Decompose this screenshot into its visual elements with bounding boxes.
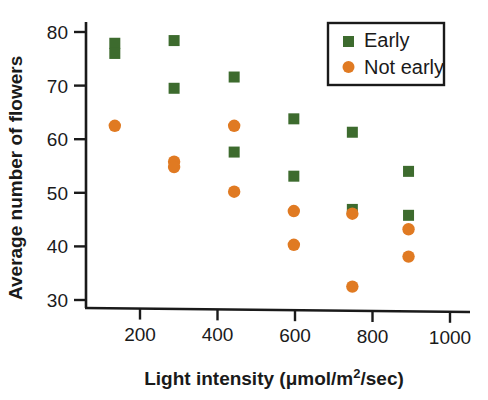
legend-label-not-early: Not early [364, 56, 444, 78]
data-point-early [403, 166, 414, 177]
data-point-early [288, 113, 299, 124]
data-point-not-early [109, 120, 121, 132]
y-tick-label-70: 70 [47, 76, 68, 97]
x-tick-label-200: 200 [124, 324, 156, 345]
data-point-early [288, 171, 299, 182]
data-point-not-early [402, 250, 414, 262]
legend-marker-early [343, 36, 354, 47]
data-point-early [229, 72, 240, 83]
data-point-early [403, 210, 414, 221]
data-point-not-early [168, 161, 180, 173]
y-tick-label-40: 40 [47, 236, 68, 257]
data-point-not-early [228, 186, 240, 198]
data-point-not-early [402, 223, 414, 235]
x-axis-title: Light intensity (μmol/m2/sec) [144, 366, 404, 389]
x-tick-label-400: 400 [202, 324, 234, 345]
y-tick-label-80: 80 [47, 22, 68, 43]
data-point-early [229, 147, 240, 158]
data-point-early [109, 48, 120, 59]
data-point-early [347, 127, 358, 138]
legend-marker-not-early [343, 61, 355, 73]
x-axis-title-superscript: 2 [353, 366, 360, 381]
y-tick-label-50: 50 [47, 183, 68, 204]
data-point-not-early [228, 120, 240, 132]
data-point-early [109, 38, 120, 49]
scatter-plot-figure: 304050607080 2004006008001000 Average nu… [0, 0, 488, 400]
x-axis-title-tail: /sec) [360, 368, 403, 389]
y-tick-label-30: 30 [47, 290, 68, 311]
legend: Early Not early [328, 23, 444, 85]
data-point-early [169, 35, 180, 46]
x-tick-label-1000: 1000 [429, 327, 471, 348]
data-point-not-early [288, 205, 300, 217]
plot-canvas: 304050607080 2004006008001000 Average nu… [0, 0, 488, 400]
data-point-not-early [288, 239, 300, 251]
y-tick-label-60: 60 [47, 129, 68, 150]
y-axis-title: Average number of flowers [5, 56, 26, 300]
x-axis-title-main: Light intensity (μmol/m [144, 368, 353, 389]
data-point-early [169, 83, 180, 94]
x-tick-label-800: 800 [357, 326, 389, 347]
x-tick-label-600: 600 [279, 325, 311, 346]
legend-label-early: Early [364, 29, 410, 51]
data-point-not-early [346, 280, 358, 292]
data-point-not-early [346, 208, 358, 220]
